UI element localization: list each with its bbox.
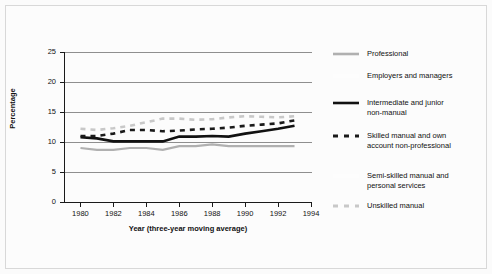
series-plot	[64, 52, 311, 202]
solid-gray-line-icon	[333, 48, 359, 60]
dashed-gray-line-icon	[333, 200, 359, 212]
series-line-5	[80, 116, 294, 130]
legend-label: Semi-skilled manual and personal service…	[367, 170, 449, 190]
legend-label: Professional	[367, 48, 408, 59]
legend-item[interactable]: Semi-skilled manual and personal service…	[333, 170, 485, 190]
y-tick-label: 15	[20, 108, 56, 116]
x-tick-mark	[311, 202, 312, 207]
y-tick-label: 10	[20, 138, 56, 146]
legend-label: Skilled manual and own account non-profe…	[367, 130, 451, 150]
legend-label: Unskilled manual	[367, 200, 424, 211]
x-axis-label: Year (three-year moving average)	[64, 224, 312, 233]
y-tick-label: 20	[20, 78, 56, 86]
y-tick-label: 0	[20, 198, 56, 206]
y-tick-label: 25	[20, 48, 56, 56]
legend-item[interactable]: Unskilled manual	[333, 200, 485, 212]
x-tick-mark	[179, 202, 180, 207]
legend-item[interactable]: Employers and managers	[333, 70, 485, 82]
solid-white-line-icon	[333, 170, 359, 182]
series-line-0	[80, 144, 294, 149]
dashed-black-line-icon	[333, 130, 359, 142]
x-axis-line	[64, 202, 312, 203]
x-tick-mark	[113, 202, 114, 207]
legend-label: Intermediate and junior non-manual	[367, 97, 444, 117]
legend-item[interactable]: Professional	[333, 48, 485, 60]
solid-black-line-icon	[333, 97, 359, 109]
x-tick-label: 1994	[291, 209, 331, 218]
y-tick-label: 5	[20, 168, 56, 176]
x-tick-mark	[80, 202, 81, 207]
plot-region: 0510152025 19801982198419861988199019921…	[0, 0, 340, 274]
x-tick-mark	[146, 202, 147, 207]
y-axis-label: Percentage	[8, 88, 17, 128]
chart-figure: 0510152025 19801982198419861988199019921…	[0, 0, 492, 274]
legend-item[interactable]: Intermediate and junior non-manual	[333, 97, 485, 117]
x-tick-mark	[212, 202, 213, 207]
x-tick-mark	[245, 202, 246, 207]
legend-item[interactable]: Skilled manual and own account non-profe…	[333, 130, 485, 150]
legend-label: Employers and managers	[367, 70, 452, 81]
solid-white-line-icon	[333, 70, 359, 82]
x-tick-mark	[278, 202, 279, 207]
